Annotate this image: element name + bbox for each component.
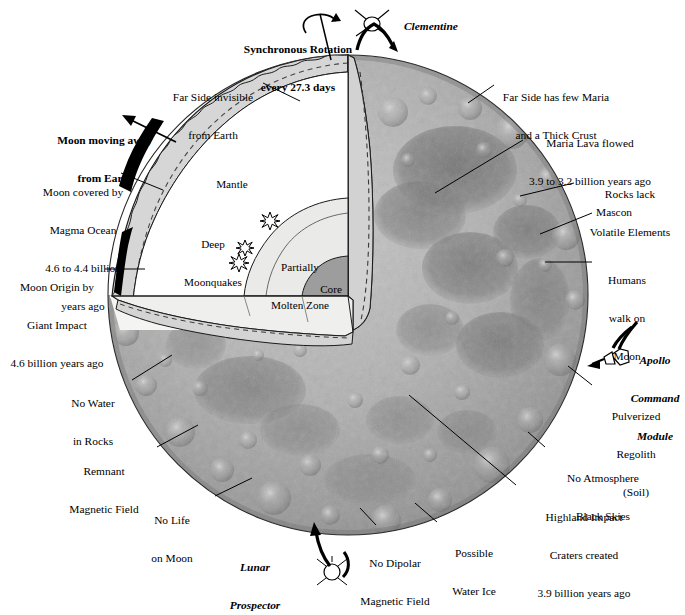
- rotation-line-1: Synchronous Rotation: [213, 43, 383, 56]
- core-label: Core: [309, 283, 353, 296]
- highland-craters-label: Highland Impact Craters created 3.9 bill…: [504, 486, 664, 615]
- moonquake-icon-1: [260, 212, 280, 230]
- no-life-on-moon-label: No Life on Moon: [132, 489, 212, 590]
- mantle-label: Mantle: [197, 178, 267, 191]
- mascon-label: Mascon: [596, 206, 666, 219]
- clementine-label: Clementine: [404, 20, 494, 33]
- no-dipolar-field-label: No Dipolar Magnetic Field: [340, 532, 450, 615]
- lunar-prospector-label: Lunar Prospector: [212, 536, 298, 615]
- deep-moonquakes-label: Deep Moonquakes: [170, 213, 256, 314]
